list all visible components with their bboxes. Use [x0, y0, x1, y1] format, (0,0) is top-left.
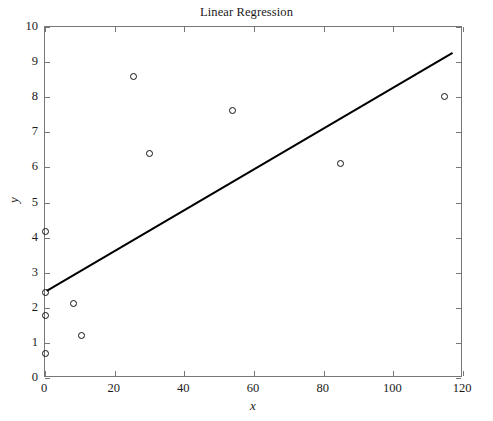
y-tick-mark — [45, 238, 50, 239]
y-tick-mark — [45, 97, 50, 98]
y-tick-mark-right — [456, 167, 461, 168]
plot-area — [44, 26, 462, 377]
y-tick-label: 3 — [8, 266, 38, 278]
y-tick-label: 7 — [8, 125, 38, 137]
linear-regression-figure: Linear Regression 012345678910 020406080… — [0, 0, 493, 421]
y-tick-mark-right — [456, 27, 461, 28]
x-tick-mark-top — [393, 27, 394, 32]
data-point — [42, 289, 49, 296]
y-tick-label: 6 — [8, 160, 38, 172]
data-point — [42, 350, 49, 357]
x-tick-mark — [393, 371, 394, 376]
y-tick-mark-right — [456, 62, 461, 63]
y-tick-mark — [45, 62, 50, 63]
x-axis-label: x — [44, 398, 462, 414]
y-tick-mark — [45, 273, 50, 274]
regression-line — [47, 53, 453, 291]
y-tick-mark-right — [456, 203, 461, 204]
x-tick-mark-top — [184, 27, 185, 32]
data-point — [441, 93, 448, 100]
x-tick-mark — [463, 371, 464, 376]
x-tick-mark — [324, 371, 325, 376]
regression-line-layer — [45, 27, 463, 378]
y-tick-label: 4 — [8, 231, 38, 243]
y-tick-mark-right — [456, 343, 461, 344]
y-tick-label: 9 — [8, 55, 38, 67]
y-tick-mark — [45, 132, 50, 133]
data-point — [42, 228, 49, 235]
x-tick-label: 100 — [370, 382, 414, 395]
y-tick-mark-right — [456, 273, 461, 274]
y-tick-label: 10 — [8, 20, 38, 32]
x-tick-mark-top — [254, 27, 255, 32]
x-tick-label: 20 — [92, 382, 136, 395]
x-tick-mark — [254, 371, 255, 376]
x-tick-mark-top — [115, 27, 116, 32]
y-tick-mark — [45, 308, 50, 309]
data-point — [130, 73, 137, 80]
x-tick-label: 0 — [22, 382, 66, 395]
y-tick-mark-right — [456, 97, 461, 98]
y-tick-mark — [45, 203, 50, 204]
x-tick-mark — [184, 371, 185, 376]
x-tick-mark-top — [45, 27, 46, 32]
y-tick-mark-right — [456, 378, 461, 379]
x-tick-label: 40 — [161, 382, 205, 395]
x-tick-label: 120 — [440, 382, 484, 395]
y-tick-mark — [45, 343, 50, 344]
y-tick-mark — [45, 167, 50, 168]
y-tick-label: 1 — [8, 336, 38, 348]
chart-title: Linear Regression — [0, 5, 493, 20]
x-tick-mark-top — [324, 27, 325, 32]
x-tick-mark — [115, 371, 116, 376]
y-axis-label: y — [6, 180, 22, 220]
x-tick-label: 60 — [231, 382, 275, 395]
data-point — [42, 312, 49, 319]
x-tick-mark-top — [463, 27, 464, 32]
x-tick-mark — [45, 371, 46, 376]
y-tick-mark-right — [456, 238, 461, 239]
data-point — [337, 160, 344, 167]
y-tick-mark — [45, 378, 50, 379]
y-tick-label: 8 — [8, 90, 38, 102]
x-tick-label: 80 — [301, 382, 345, 395]
y-tick-label: 2 — [8, 301, 38, 313]
y-tick-mark-right — [456, 308, 461, 309]
data-point — [229, 107, 236, 114]
y-tick-mark-right — [456, 132, 461, 133]
